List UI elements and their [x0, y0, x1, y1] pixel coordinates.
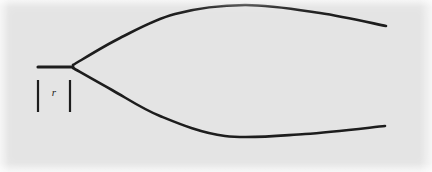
- drawing-background: [0, 0, 432, 172]
- radius-label: r: [52, 86, 57, 98]
- figure-drawing: r: [0, 0, 432, 172]
- figure-container: r: [0, 0, 432, 172]
